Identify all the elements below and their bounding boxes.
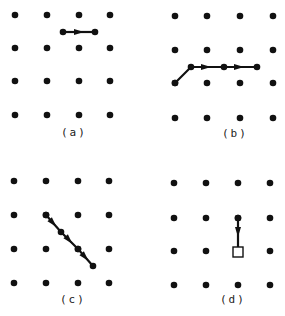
lattice-point: [203, 180, 210, 187]
lattice-point: [171, 180, 178, 187]
panel-label: (c): [60, 293, 86, 306]
lattice-point: [44, 78, 51, 85]
lattice-point: [106, 212, 113, 219]
lattice-point: [44, 12, 51, 19]
lattice-path-figure: (a) (b) (c) (d): [0, 0, 285, 316]
lattice-point: [107, 78, 114, 85]
lattice-point: [237, 115, 244, 122]
lattice-point: [44, 112, 51, 119]
arrow-icon: [201, 64, 211, 70]
lattice-point: [75, 178, 82, 185]
lattice-point: [75, 280, 82, 287]
arrow-icon: [235, 227, 241, 237]
lattice-point: [204, 13, 211, 20]
panel-label: (b): [222, 127, 248, 140]
lattice-point: [204, 80, 211, 87]
panel-b: (b): [172, 13, 277, 140]
lattice-point: [11, 246, 18, 253]
arrow-icon: [234, 64, 244, 70]
path-vertex: [43, 212, 50, 219]
lattice-point: [76, 45, 83, 52]
lattice-point: [12, 78, 19, 85]
lattice-point: [203, 282, 210, 289]
lattice-point: [106, 280, 113, 287]
lattice-point: [267, 180, 274, 187]
lattice-point: [76, 12, 83, 19]
lattice-point: [203, 215, 210, 222]
lattice-point: [43, 246, 50, 253]
lattice-point: [171, 215, 178, 222]
lattice-point: [107, 112, 114, 119]
lattice-point: [11, 178, 18, 185]
lattice-point: [267, 282, 274, 289]
lattice-point: [11, 212, 18, 219]
path-vertex: [235, 215, 242, 222]
lattice-point: [75, 212, 82, 219]
panel-label: (d): [220, 293, 246, 306]
path-vertex: [92, 29, 99, 36]
lattice-point: [270, 47, 277, 54]
lattice-point: [11, 280, 18, 287]
path-vertex: [172, 80, 179, 87]
arrow-icon: [74, 29, 84, 35]
lattice-point: [12, 45, 19, 52]
walk-path: [175, 67, 257, 83]
lattice-point: [237, 13, 244, 20]
lattice-point: [270, 80, 277, 87]
lattice-point: [76, 78, 83, 85]
lattice-point: [270, 13, 277, 20]
lattice-point: [235, 180, 242, 187]
lattice-point: [43, 178, 50, 185]
path-vertex: [221, 64, 228, 71]
lattice-point: [171, 282, 178, 289]
lattice-point: [237, 47, 244, 54]
panel-c: (c): [11, 178, 113, 306]
path-vertex: [58, 229, 65, 236]
path-vertex: [90, 263, 97, 270]
panel-a: (a): [12, 12, 114, 139]
lattice-point: [172, 47, 179, 54]
lattice-point: [204, 115, 211, 122]
lattice-point: [270, 115, 277, 122]
lattice-point: [106, 178, 113, 185]
lattice-point: [235, 282, 242, 289]
lattice-point: [237, 80, 244, 87]
panel-d: (d): [171, 180, 274, 306]
path-vertex: [75, 246, 82, 253]
lattice-point: [107, 12, 114, 19]
lattice-point: [172, 115, 179, 122]
path-vertex: [254, 64, 261, 71]
lattice-point: [267, 248, 274, 255]
lattice-point: [267, 215, 274, 222]
lattice-point: [203, 248, 210, 255]
lattice-point: [106, 246, 113, 253]
path-vertex: [60, 29, 67, 36]
end-square-marker: [233, 247, 243, 257]
lattice-point: [12, 112, 19, 119]
lattice-point: [12, 12, 19, 19]
lattice-point: [171, 248, 178, 255]
lattice-point: [204, 47, 211, 54]
lattice-point: [76, 112, 83, 119]
lattice-point: [44, 45, 51, 52]
path-vertex: [188, 64, 195, 71]
panel-label: (a): [61, 126, 87, 139]
lattice-point: [43, 280, 50, 287]
lattice-point: [107, 45, 114, 52]
lattice-point: [172, 13, 179, 20]
